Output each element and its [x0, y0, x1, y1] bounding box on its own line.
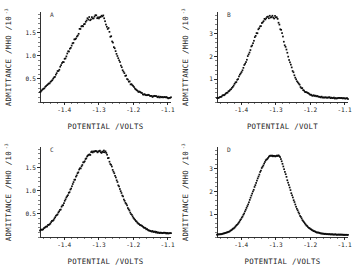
panel-letter: C	[50, 146, 54, 153]
y-axis-title: ADMITTANCE /MHO /10	[4, 151, 13, 241]
y-axis-title: ADMITTANCE /MHO /10	[4, 16, 13, 106]
x-tick-label: -1.4	[57, 241, 71, 248]
x-tick-label: -1.3	[92, 241, 106, 248]
x-tick-label: -1.2	[126, 106, 140, 113]
x-axis-title: POTENTIAL /VOLTS	[68, 122, 144, 131]
y-tick-label: 1.0	[25, 52, 36, 59]
panel-letter: D	[227, 146, 231, 153]
y-axis-exponent: -3	[181, 143, 186, 149]
x-tick-label: -1.2	[126, 241, 140, 248]
panel-letter: B	[227, 11, 231, 18]
x-tick-label: -1.1	[161, 106, 175, 113]
y-tick-label: 0.5	[25, 75, 36, 82]
data-points	[216, 154, 349, 235]
x-tick-label: -1.3	[269, 106, 283, 113]
x-axis-title: POTENTIAL /VOLT	[247, 122, 318, 131]
y-axis-title: ADMITTANCE /MHO /10	[181, 151, 190, 241]
y-tick-label: 1	[209, 210, 213, 217]
y-axis-exponent: -3	[181, 8, 186, 14]
y-axis-title: ADMITTANCE /MHO /10	[181, 16, 190, 106]
y-tick-label: 1.5	[25, 29, 36, 36]
x-tick-label: -1.1	[338, 106, 352, 113]
y-tick-label: 0.5	[25, 210, 36, 217]
x-tick-label: -1.4	[234, 106, 248, 113]
x-tick-label: -1.3	[269, 241, 283, 248]
plot-panel-c: 0.51.01.5-1.4-1.3-1.2-1.1POTENTIAL /VOLT…	[0, 135, 177, 270]
admittance-figure: 0.51.01.5-1.4-1.3-1.2-1.1POTENTIAL /VOLT…	[0, 0, 354, 270]
data-points	[216, 15, 349, 100]
data-points	[39, 14, 172, 99]
y-axis-exponent: -3	[4, 8, 9, 14]
x-tick-label: -1.4	[234, 241, 248, 248]
plot-panel-a: 0.51.01.5-1.4-1.3-1.2-1.1POTENTIAL /VOLT…	[0, 0, 177, 135]
y-tick-label: 3	[209, 165, 213, 172]
plot-panel-b: 123-1.4-1.3-1.2-1.1POTENTIAL /VOLTADMITT…	[177, 0, 354, 135]
y-tick-label: 2	[209, 53, 213, 60]
y-tick-label: 1.0	[25, 187, 36, 194]
x-tick-label: -1.1	[338, 241, 352, 248]
x-tick-label: -1.1	[161, 241, 175, 248]
x-tick-label: -1.4	[57, 106, 71, 113]
y-tick-label: 3	[209, 30, 213, 37]
x-axis-title: POTENTIAL /VOLTS	[68, 257, 144, 266]
x-axis-title: POTENTIAL /VOLTS	[245, 257, 321, 266]
data-points	[39, 150, 172, 235]
plot-panel-d: 123-1.4-1.3-1.2-1.1POTENTIAL /VOLTSADMIT…	[177, 135, 354, 270]
y-axis-exponent: -3	[4, 143, 9, 149]
y-tick-label: 1.5	[25, 164, 36, 171]
x-tick-label: -1.2	[303, 106, 317, 113]
y-tick-label: 1	[209, 75, 213, 82]
panel-letter: A	[50, 11, 54, 18]
y-tick-label: 2	[209, 188, 213, 195]
x-tick-label: -1.3	[92, 106, 106, 113]
x-tick-label: -1.2	[303, 241, 317, 248]
